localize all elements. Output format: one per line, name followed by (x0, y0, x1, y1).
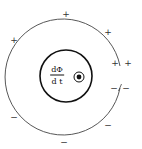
induction-diagram (0, 0, 142, 149)
fraction-numerator: dΦ (50, 65, 64, 76)
minus-sign: − (122, 84, 130, 93)
minus-sign: − (110, 84, 118, 93)
flux-rate-fraction: dΦ d t (50, 65, 64, 86)
minus-sign: − (10, 113, 18, 122)
plus-sign: + (62, 10, 70, 19)
fraction-denominator: d t (50, 76, 64, 86)
minus-sign: − (60, 138, 68, 147)
plus-sign: + (104, 28, 112, 37)
minus-sign: − (104, 121, 112, 130)
plus-sign: + (124, 59, 132, 68)
plus-sign: + (10, 36, 18, 45)
field-out-of-page-icon (74, 72, 84, 82)
plus-sign: + (111, 59, 119, 68)
